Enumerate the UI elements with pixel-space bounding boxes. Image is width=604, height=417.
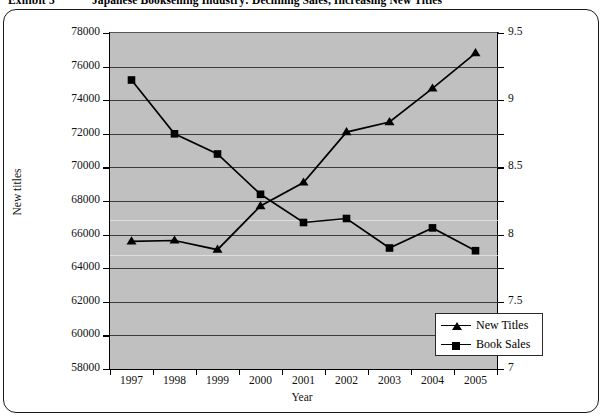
- y2-tick-label: 7: [508, 361, 568, 373]
- y2-tick: [498, 302, 504, 303]
- legend-item-book-sales[interactable]: Book Sales: [441, 335, 530, 353]
- y-tick: [103, 201, 109, 202]
- y-tick: [103, 235, 109, 236]
- y-tick: [103, 167, 109, 168]
- y2-tick: [498, 369, 504, 370]
- chart-legend: New Titles Book Sales: [435, 313, 543, 356]
- y-tick-label: 76000: [0, 59, 100, 71]
- gridline-major: [110, 302, 498, 303]
- x-axis-title: Year: [0, 391, 604, 403]
- gridline-highlight: [110, 255, 498, 256]
- y-tick-label: 72000: [0, 126, 100, 138]
- y-tick-label: 64000: [0, 260, 100, 272]
- exhibit-title: Japanese Bookselling Industry: Declining…: [92, 0, 442, 6]
- y2-tick: [498, 67, 504, 68]
- y2-tick: [498, 201, 504, 202]
- y-axis-title: New titles: [11, 169, 23, 216]
- y-tick: [103, 134, 109, 135]
- y2-tick: [498, 33, 504, 34]
- y-tick: [103, 302, 109, 303]
- gridline-highlight: [110, 220, 498, 221]
- y-tick-label: 60000: [0, 327, 100, 339]
- y-tick-label: 74000: [0, 92, 100, 104]
- y2-tick-label: 8.5: [508, 159, 568, 171]
- exhibit-chart-page: Exhibit 5 Japanese Bookselling Industry:…: [0, 0, 604, 417]
- gridline-major: [110, 100, 498, 101]
- y-tick: [103, 67, 109, 68]
- y-tick: [103, 335, 109, 336]
- y2-tick: [498, 235, 504, 236]
- square-marker-icon: [441, 338, 471, 350]
- gridline-major: [110, 201, 498, 202]
- exhibit-tag: Exhibit 5: [8, 0, 55, 6]
- x-axis-line: [109, 369, 499, 370]
- y-tick: [103, 369, 109, 370]
- y2-tick-label: 9.5: [508, 25, 568, 37]
- y-tick-label: 78000: [0, 25, 100, 37]
- x-tick-label: 2005: [446, 374, 506, 386]
- gridline-major: [110, 235, 498, 236]
- y2-tick: [498, 134, 504, 135]
- plot-border-top: [109, 32, 499, 33]
- y-tick-label: 66000: [0, 227, 100, 239]
- y2-tick-label: 7.5: [508, 294, 568, 306]
- legend-item-new-titles[interactable]: New Titles: [441, 316, 528, 334]
- y2-tick: [498, 167, 504, 168]
- gridline-major: [110, 268, 498, 269]
- gridline-major: [110, 67, 498, 68]
- gridline-major: [110, 167, 498, 168]
- legend-label-book-sales: Book Sales: [476, 337, 530, 352]
- y-tick: [103, 33, 109, 34]
- y2-tick-label: 9: [508, 92, 568, 104]
- triangle-marker-icon: [441, 319, 471, 331]
- y-tick-label: 62000: [0, 294, 100, 306]
- y-tick: [103, 100, 109, 101]
- y-tick: [103, 268, 109, 269]
- y2-tick: [498, 268, 504, 269]
- y-tick-label: 58000: [0, 361, 100, 373]
- y2-tick: [498, 100, 504, 101]
- gridline-major: [110, 134, 498, 135]
- legend-label-new-titles: New Titles: [476, 318, 528, 333]
- y2-tick-label: 8: [508, 227, 568, 239]
